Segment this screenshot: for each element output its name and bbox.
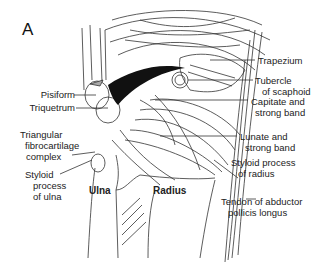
label-capitate-line1: Capitate and (251, 96, 305, 107)
label-trapezium: Trapezium (258, 55, 303, 66)
label-radius: Radius (153, 185, 186, 196)
label-pisiform: Pisiform (27, 89, 75, 100)
label-triquetrum: Triquetrum (17, 102, 75, 113)
label-tubercle-line1: Tubercle (255, 75, 292, 86)
label-lunate-line1: Lunate and (240, 131, 288, 142)
wrist-anatomy-figure: A Pisiform Triquetrum Triangular fibroca… (0, 0, 322, 276)
label-styloid-ulna-line2: process (33, 180, 66, 191)
label-styloid-radius-line2: of radius (238, 168, 274, 179)
label-styloid-ulna-line3: of ulna (33, 191, 62, 202)
label-capitate-line2: strong band (255, 107, 305, 118)
label-lunate-line2: strong band (245, 142, 295, 153)
label-tendon-line2: pollicis longus (228, 207, 287, 218)
label-styloid-radius-line1: Styloid process (231, 157, 295, 168)
label-tfcc-line2: fibrocartilage (25, 140, 79, 151)
panel-label: A (22, 20, 33, 40)
label-ulna: Ulna (89, 185, 111, 196)
label-tfcc-line3: complex (26, 151, 61, 162)
label-tfcc-line1: Triangular (20, 129, 62, 140)
label-tendon-line1: Tendon of abductor (221, 196, 302, 207)
label-styloid-ulna-line1: Styloid (25, 169, 54, 180)
